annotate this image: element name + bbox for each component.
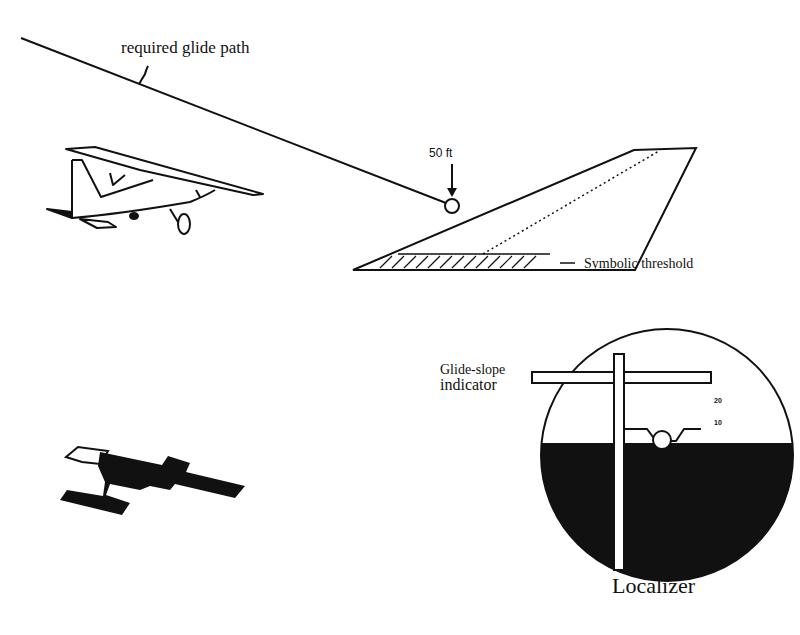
symbolic-threshold-hatching	[380, 256, 536, 268]
glide-slope-label: Glide-slope indicator	[440, 363, 505, 393]
ils-attitude-indicator-icon	[532, 329, 800, 593]
altitude-marker	[445, 164, 459, 213]
pitch-tick-20: 20	[714, 397, 722, 404]
airplane-side-view-icon	[47, 147, 263, 234]
runway-perspective-icon	[353, 148, 696, 270]
threshold-label: Symbolic threshold	[584, 256, 693, 272]
ground-half	[540, 443, 800, 593]
glide-slope-label-line1: Glide-slope	[440, 363, 505, 377]
glide-slope-label-line2: indicator	[440, 377, 505, 393]
glide-path-label: required glide path	[121, 38, 249, 58]
airplane-top-view-silhouette-icon	[60, 447, 245, 515]
aim-point-circle	[445, 199, 459, 213]
localizer-label: Localizer	[612, 573, 695, 599]
pitch-tick-10: 10	[714, 419, 722, 426]
approach-diagram	[0, 0, 800, 635]
altitude-label: 50 ft	[429, 146, 452, 160]
localizer-needle	[614, 354, 624, 570]
glide-path	[21, 38, 446, 203]
